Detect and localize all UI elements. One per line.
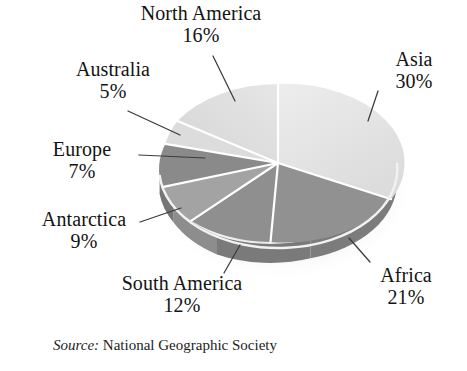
pie-label-africa-value: 21%	[352, 286, 460, 308]
pie-label-north-america: North America 16%	[96, 2, 306, 47]
pie-label-australia: Australia 5%	[38, 58, 188, 103]
pie-label-africa: Africa 21%	[352, 264, 460, 309]
pie-label-europe: Europe 7%	[12, 138, 152, 183]
source-note: Source: National Geographic Society	[53, 337, 277, 354]
pie-label-africa-name: Africa	[352, 264, 460, 286]
pie-label-asia-name: Asia	[366, 48, 462, 70]
pie-label-asia: Asia 30%	[366, 48, 462, 93]
pie-label-antarctica: Antarctica 9%	[4, 208, 164, 253]
pie-label-antarctica-name: Antarctica	[4, 208, 164, 230]
pie-label-antarctica-value: 9%	[4, 230, 164, 252]
pie-chart-figure: North America 16% Asia 30% Australia 5% …	[0, 0, 467, 371]
source-label: Source:	[53, 337, 99, 353]
pie-label-australia-value: 5%	[38, 80, 188, 102]
pie-label-asia-value: 30%	[366, 70, 462, 92]
pie-label-europe-name: Europe	[12, 138, 152, 160]
leader-line-australia	[128, 111, 180, 135]
pie-label-north-america-value: 16%	[96, 24, 306, 46]
source-text: National Geographic Society	[103, 337, 277, 353]
pie-label-south-america-name: South America	[92, 272, 272, 294]
pie-label-europe-value: 7%	[12, 160, 152, 182]
pie-label-south-america-value: 12%	[92, 294, 272, 316]
pie-label-north-america-name: North America	[96, 2, 306, 24]
pie-label-south-america: South America 12%	[92, 272, 272, 317]
pie-label-australia-name: Australia	[38, 58, 188, 80]
